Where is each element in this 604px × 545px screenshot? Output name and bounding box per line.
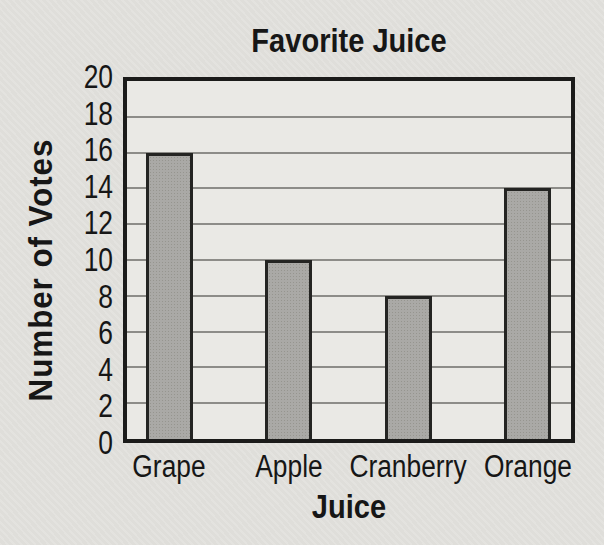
y-tick-label-4: 4 bbox=[49, 352, 113, 388]
y-tick-label-18: 18 bbox=[49, 96, 113, 132]
x-axis-title: Juice bbox=[150, 488, 548, 526]
plot-area bbox=[123, 77, 575, 443]
y-tick-label-16: 16 bbox=[49, 132, 113, 168]
bar-orange bbox=[504, 188, 551, 439]
y-tick-label-10: 10 bbox=[49, 242, 113, 278]
bar-grape bbox=[146, 153, 193, 439]
gridline-18 bbox=[127, 116, 571, 118]
gridline-16 bbox=[127, 152, 571, 154]
bar-apple bbox=[265, 260, 312, 439]
y-tick-label-12: 12 bbox=[49, 205, 113, 241]
chart-figure: Favorite Juice Number of Votes 024681012… bbox=[0, 0, 604, 545]
x-tick-label-orange: Orange bbox=[455, 449, 600, 485]
y-tick-label-2: 2 bbox=[49, 388, 113, 424]
bar-cranberry bbox=[385, 296, 432, 439]
chart-title: Favorite Juice bbox=[150, 22, 548, 60]
y-tick-label-20: 20 bbox=[49, 59, 113, 95]
y-tick-label-14: 14 bbox=[49, 169, 113, 205]
y-tick-label-8: 8 bbox=[49, 279, 113, 315]
y-tick-label-6: 6 bbox=[49, 315, 113, 351]
